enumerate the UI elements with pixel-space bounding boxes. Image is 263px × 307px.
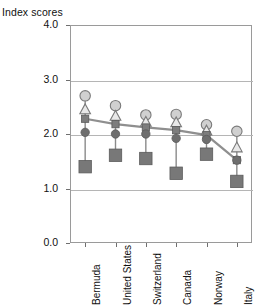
marker-small-square	[173, 127, 180, 134]
marker-large-square	[109, 149, 121, 161]
trend-line	[85, 119, 237, 160]
series-layer	[0, 0, 263, 307]
marker-filled-circle	[142, 130, 150, 138]
marker-large-square	[140, 152, 152, 164]
marker-open-triangle	[80, 104, 91, 114]
marker-open-triangle	[232, 142, 243, 152]
marker-large-square	[79, 161, 91, 173]
marker-small-square	[112, 121, 119, 128]
marker-open-circle	[232, 126, 242, 136]
marker-open-circle	[80, 91, 90, 101]
index-scores-chart: Index scores 0.01.02.03.04.0 BermudaUnit…	[0, 0, 263, 307]
marker-filled-circle	[172, 134, 180, 142]
marker-filled-circle	[233, 156, 241, 164]
marker-filled-circle	[81, 128, 89, 136]
marker-open-triangle	[110, 110, 121, 120]
marker-large-square	[200, 148, 212, 160]
marker-large-square	[231, 175, 243, 187]
marker-filled-circle	[202, 135, 210, 143]
marker-filled-circle	[111, 130, 119, 138]
marker-small-square	[82, 115, 89, 122]
marker-large-square	[170, 167, 182, 179]
